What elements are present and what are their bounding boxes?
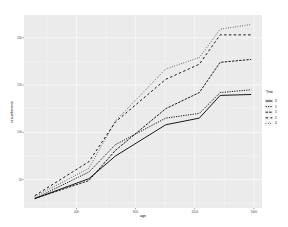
- y-axis-title: circumference: [10, 101, 14, 123]
- legend-label: 4: [275, 121, 277, 125]
- y-tick-label: 150: [17, 83, 22, 87]
- legend: Tree 31524: [265, 90, 277, 126]
- y-axis: 50100150200: [17, 36, 24, 182]
- x-tick-label: 1600: [251, 210, 258, 214]
- legend-label: 5: [275, 110, 277, 114]
- y-tick-label: 50: [19, 178, 23, 182]
- x-tick-label: 400: [74, 210, 79, 214]
- legend-label: 2: [275, 116, 277, 120]
- legend-title: Tree: [266, 90, 273, 94]
- x-tick-label: 1200: [191, 210, 198, 214]
- plot-panel: [24, 15, 262, 208]
- y-tick-label: 200: [17, 36, 22, 40]
- x-axis: 40080012001600: [74, 208, 258, 214]
- x-axis-title: age: [140, 214, 146, 218]
- legend-label: 1: [275, 105, 277, 109]
- legend-label: 3: [275, 99, 277, 103]
- y-tick-label: 100: [17, 130, 22, 134]
- x-tick-label: 800: [133, 210, 138, 214]
- line-chart: 40080012001600 50100150200 age circumfer…: [0, 0, 288, 227]
